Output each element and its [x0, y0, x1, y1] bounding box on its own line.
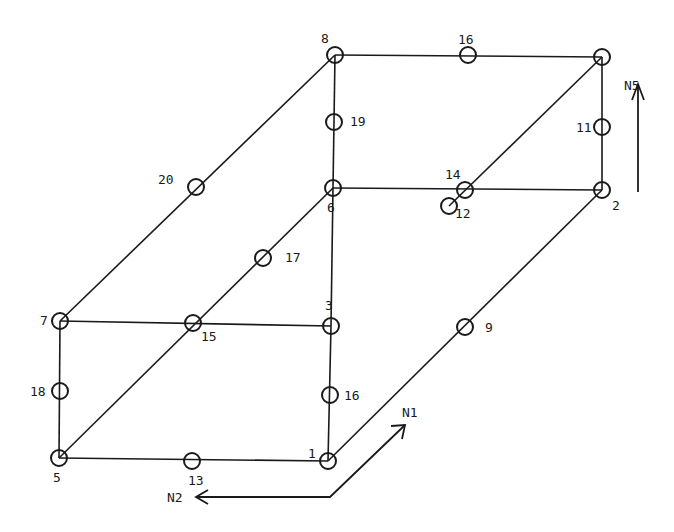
node-3-label: 3 [325, 298, 333, 313]
node-14-label: 14 [445, 167, 461, 182]
node-11-label: 11 [576, 120, 592, 135]
node-9-label: 9 [485, 320, 493, 335]
node-17-label: 17 [285, 250, 301, 265]
edge-8-6 [333, 55, 335, 188]
node-1-label: 1 [308, 446, 316, 461]
node-9-circle [457, 319, 473, 335]
node-8-label: 8 [321, 31, 329, 46]
edge-7-8 [60, 55, 335, 321]
node-5-label: 5 [53, 470, 61, 485]
node-19-label: 19 [350, 114, 366, 129]
brick-element-diagram: 123567891112131415161617181920 N5 N1 N2 [0, 0, 674, 532]
node-20-label: 20 [158, 172, 174, 187]
n1-n2-direction-arrows: N1 N2 [167, 405, 418, 505]
n1-label: N1 [402, 405, 418, 420]
edge-5-6 [59, 188, 333, 458]
edge-5-1 [59, 458, 328, 461]
element-nodes [51, 47, 610, 469]
edge-3-1 [328, 326, 331, 461]
node-2-label: 2 [612, 198, 620, 213]
node-6-label: 6 [327, 200, 335, 215]
node-15-label: 15 [201, 329, 217, 344]
n5-direction-arrow: N5 [624, 78, 644, 192]
node-13-label: 13 [188, 473, 204, 488]
edge-8-4 [335, 55, 602, 57]
n2-label: N2 [167, 490, 183, 505]
node-13-circle [184, 453, 200, 469]
edge-1-2 [328, 190, 602, 461]
n5-label: N5 [624, 78, 640, 93]
node-12-label: 12 [455, 206, 471, 221]
node-7-label: 7 [40, 313, 48, 328]
edge-7-5 [59, 321, 60, 458]
node-18-label: 18 [30, 384, 46, 399]
node-16a-circle [460, 47, 476, 63]
node-16a-label: 16 [458, 32, 474, 47]
node-16b-label: 16 [344, 388, 360, 403]
node-20-circle [188, 179, 204, 195]
